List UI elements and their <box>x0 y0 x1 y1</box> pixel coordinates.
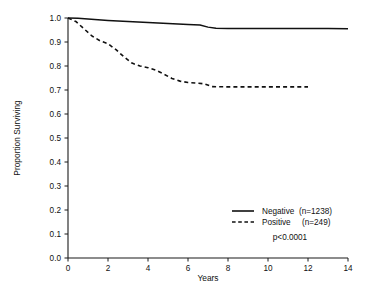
x-tick-label: 4 <box>146 264 151 273</box>
legend-count-negative: (n=1238) <box>299 207 332 216</box>
x-tick-label: 12 <box>303 264 313 273</box>
legend-count-positive: (n=249) <box>302 218 331 227</box>
x-tick-group: 02468101214 <box>66 258 353 273</box>
y-tick-label: 0.4 <box>50 158 62 167</box>
legend-label-negative: Negative <box>262 207 295 216</box>
y-tick-label: 0.1 <box>50 230 62 239</box>
x-tick-label: 10 <box>263 264 273 273</box>
x-tick-label: 6 <box>186 264 191 273</box>
y-tick-label: 0.3 <box>50 182 62 191</box>
survival-chart-figure: 0.00.10.20.30.40.50.60.70.80.91.0 024681… <box>0 0 371 295</box>
x-tick-label: 2 <box>106 264 111 273</box>
y-tick-label: 0.0 <box>50 254 62 263</box>
x-tick-label: 8 <box>226 264 231 273</box>
chart-legend: Negative (n=1238) Positive (n=249) p<0.0… <box>232 207 332 242</box>
series-line-negative <box>68 18 348 29</box>
kaplan-meier-plot: 0.00.10.20.30.40.50.60.70.80.91.0 024681… <box>0 0 371 295</box>
legend-label-positive: Positive <box>262 218 291 227</box>
y-tick-label: 0.8 <box>50 62 62 71</box>
x-axis-title: Years <box>197 273 218 283</box>
y-tick-label: 0.7 <box>50 86 62 95</box>
y-tick-label: 0.5 <box>50 134 62 143</box>
x-tick-label: 0 <box>66 264 71 273</box>
series-group <box>68 18 348 87</box>
p-value-annotation: p<0.0001 <box>273 233 308 242</box>
x-tick-label: 14 <box>343 264 353 273</box>
y-tick-label: 0.2 <box>50 206 62 215</box>
y-tick-label: 0.6 <box>50 110 62 119</box>
y-axis-title: Proportion Surviving <box>12 100 22 176</box>
y-tick-label: 0.9 <box>50 38 62 47</box>
y-tick-label: 1.0 <box>50 14 62 23</box>
y-tick-group: 0.00.10.20.30.40.50.60.70.80.91.0 <box>50 14 68 263</box>
